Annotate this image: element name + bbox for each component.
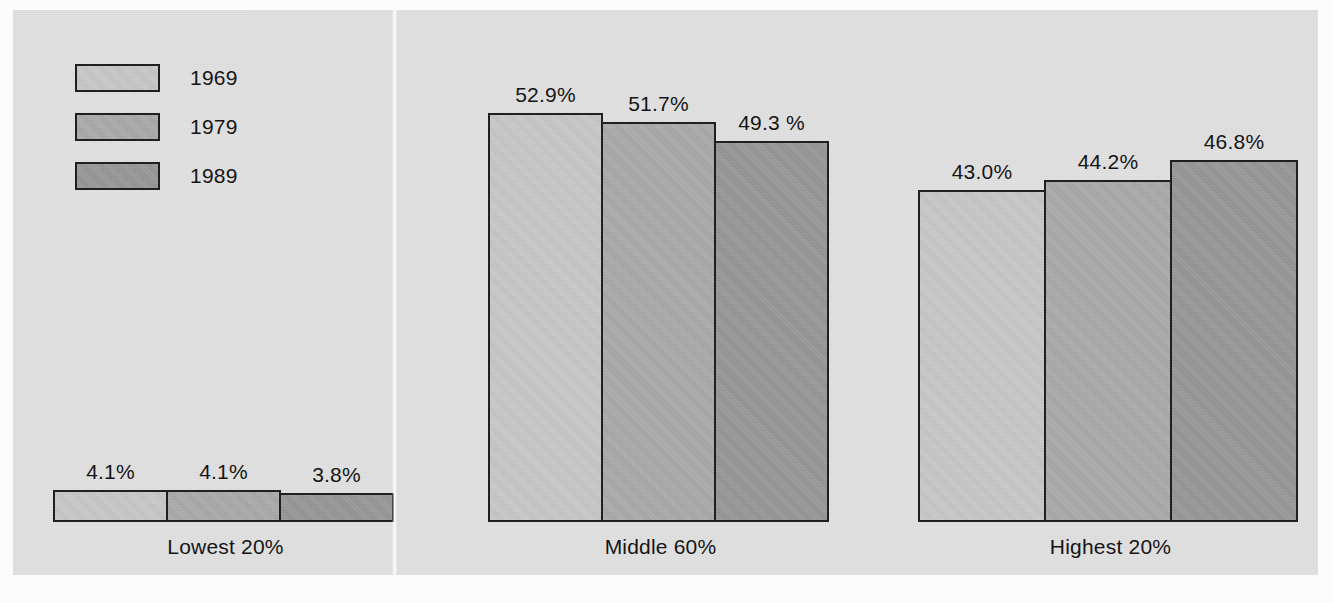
- scanned-page: 1969 1979 1989 4.1%: [0, 0, 1333, 603]
- bar-value-label: 52.9%: [515, 83, 576, 107]
- bar-slot: 46.8%: [1170, 160, 1298, 522]
- bar-1989: [1170, 160, 1298, 522]
- bar-1989: [279, 493, 394, 522]
- bar-value-label: 44.2%: [1078, 150, 1139, 174]
- chart-panel: 1969 1979 1989 4.1%: [13, 10, 1318, 575]
- bar-slot: 49.3 %: [714, 141, 829, 522]
- bar-slot: 3.8%: [279, 493, 394, 522]
- bar-group-highest-20: 43.0% 44.2% 46.8% Highest 20%: [918, 10, 1303, 575]
- bar-1979: [601, 122, 716, 522]
- group-label-middle-60: Middle 60%: [488, 535, 833, 559]
- bar-slot: 44.2%: [1044, 180, 1172, 522]
- bar-slot: 52.9%: [488, 113, 603, 522]
- bar-value-label: 3.8%: [312, 463, 361, 487]
- bar-value-label: 43.0%: [952, 160, 1013, 184]
- group-label-highest-20: Highest 20%: [918, 535, 1303, 559]
- bar-group-middle-60: 52.9% 51.7% 49.3 % Middle 60%: [488, 10, 833, 575]
- bar-slot: 51.7%: [601, 122, 716, 522]
- bar-slot: 4.1%: [53, 490, 168, 522]
- bar-slot: 43.0%: [918, 190, 1046, 522]
- bars-row: 52.9% 51.7% 49.3 %: [488, 113, 833, 522]
- bar-value-label: 49.3 %: [738, 111, 805, 135]
- bar-group-lowest-20: 4.1% 4.1% 3.8% Lowest 20%: [53, 10, 398, 575]
- bar-1979: [1044, 180, 1172, 522]
- bar-1969: [918, 190, 1046, 522]
- bar-1979: [166, 490, 281, 522]
- plot-area: 1969 1979 1989 4.1%: [13, 10, 1318, 575]
- bar-value-label: 4.1%: [86, 460, 135, 484]
- bars-row: 4.1% 4.1% 3.8%: [53, 490, 398, 522]
- bar-value-label: 4.1%: [199, 460, 248, 484]
- bar-slot: 4.1%: [166, 490, 281, 522]
- bars-row: 43.0% 44.2% 46.8%: [918, 160, 1303, 522]
- group-label-lowest-20: Lowest 20%: [53, 535, 398, 559]
- bar-value-label: 46.8%: [1204, 130, 1265, 154]
- bar-value-label: 51.7%: [628, 92, 689, 116]
- bar-1989: [714, 141, 829, 522]
- bar-1969: [53, 490, 168, 522]
- bar-1969: [488, 113, 603, 522]
